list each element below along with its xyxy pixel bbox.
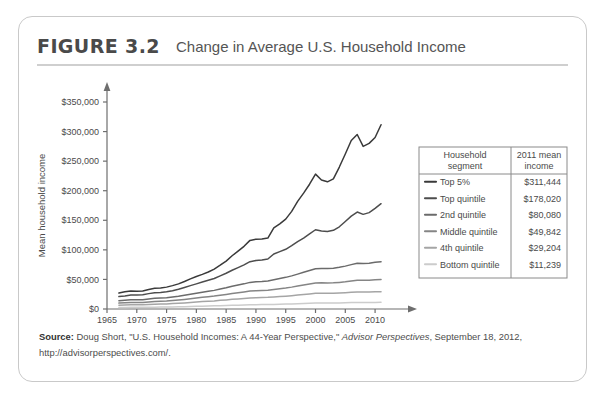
legend-row-label: 2nd quintile — [440, 210, 486, 220]
y-tick-label: $150,000 — [61, 215, 99, 225]
legend-header-income: income — [524, 161, 553, 171]
y-tick-label: $350,000 — [61, 97, 99, 107]
x-tick-label: 1985 — [216, 315, 236, 325]
y-tick-label: $100,000 — [61, 245, 99, 255]
x-tick-label: 2005 — [335, 315, 355, 325]
x-tick-label: 1995 — [276, 315, 296, 325]
source-label: Source: — [39, 331, 74, 342]
series-line — [119, 262, 381, 301]
figure-title: Change in Average U.S. Household Income — [176, 38, 466, 55]
legend-row-value: $80,080 — [528, 210, 561, 220]
chart-plot-region: $0$50,000$100,000$150,000$200,000$250,00… — [19, 67, 585, 327]
series-line — [119, 302, 381, 307]
figure-number: FIGURE 3.2 — [37, 35, 160, 57]
legend-header-segment: segment — [448, 161, 483, 171]
legend-row-value: $29,204 — [528, 243, 561, 253]
x-tick-label: 2010 — [365, 315, 385, 325]
x-axis: 1965197019751980198519901995200020052010 — [97, 306, 417, 325]
legend-row-label: 4th quintile — [440, 243, 484, 253]
source-text-2: , September 18, 2012, — [429, 331, 522, 342]
x-tick-label: 1980 — [186, 315, 206, 325]
y-tick-label: $50,000 — [66, 275, 99, 285]
source-text-1: Doug Short, "U.S. Household Incomes: A 4… — [74, 331, 342, 342]
source-url: http://advisorperspectives.com/. — [39, 347, 171, 358]
legend-row-label: Top quintile — [440, 194, 486, 204]
x-tick-label: 1970 — [127, 315, 147, 325]
y-tick-label: $250,000 — [61, 156, 99, 166]
data-series-group — [119, 125, 381, 308]
x-tick-label: 1975 — [157, 315, 177, 325]
legend-row-value: $178,020 — [523, 194, 561, 204]
legend-row-label: Middle quintile — [440, 227, 498, 237]
source-note: Source: Doug Short, "U.S. Household Inco… — [39, 329, 566, 360]
y-tick-label: $0 — [89, 304, 99, 314]
x-tick-label: 2000 — [305, 315, 325, 325]
legend-header-income: 2011 mean — [517, 150, 561, 160]
series-line — [119, 125, 381, 293]
legend-row-label: Top 5% — [440, 177, 470, 187]
y-axis-title: Mean household income — [36, 154, 47, 258]
y-tick-label: $300,000 — [61, 127, 99, 137]
x-tick-label: 1990 — [246, 315, 266, 325]
x-tick-label: 1965 — [97, 315, 117, 325]
legend-row-value: $311,444 — [524, 177, 561, 187]
legend-header-segment: Household — [443, 150, 486, 160]
income-line-chart: $0$50,000$100,000$150,000$200,000$250,00… — [19, 67, 585, 327]
title-divider — [37, 64, 568, 66]
y-tick-label: $200,000 — [61, 186, 99, 196]
legend-table: Householdsegment2011 meanincomeTop 5%$31… — [419, 147, 567, 278]
legend-row-value: $11,239 — [529, 260, 561, 270]
figure-card: FIGURE 3.2 Change in Average U.S. Househ… — [18, 16, 587, 382]
legend-row-value: $49,842 — [528, 227, 561, 237]
figure-header: FIGURE 3.2 Change in Average U.S. Househ… — [37, 29, 568, 63]
source-publication: Advisor Perspectives — [342, 331, 430, 342]
legend-row-label: Bottom quintile — [440, 260, 500, 270]
y-axis: $0$50,000$100,000$150,000$200,000$250,00… — [61, 82, 110, 314]
